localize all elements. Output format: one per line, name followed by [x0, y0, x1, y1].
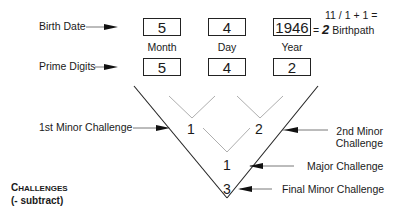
final-minor-value: 3 [223, 181, 231, 197]
day-label: Day [208, 41, 246, 53]
prime-day-box: 4 [208, 58, 246, 76]
prime-digits-arrow [95, 64, 118, 70]
major-v [203, 128, 250, 152]
major-value: 1 [223, 157, 231, 173]
first-minor-v [169, 96, 215, 118]
birthpath-label: Birthpath [332, 24, 374, 36]
major-arrow [249, 163, 294, 169]
second-minor-arrow [282, 127, 328, 133]
birth-date-label: Birth Date [39, 20, 86, 32]
first-minor-label: 1st Minor Challenge [39, 121, 132, 133]
birth-date-arrow [86, 24, 118, 30]
prime-digits-label: Prime Digits [39, 60, 96, 72]
challenges-subtitle: (- subtract) [11, 195, 68, 207]
second-minor-value: 2 [255, 121, 263, 137]
equals-sign: = [313, 24, 319, 36]
prime-year-box: 2 [273, 58, 311, 76]
second-minor-label: 2nd Minor Challenge [333, 125, 383, 149]
year-label: Year [273, 41, 311, 53]
birth-year-box: 1946 [273, 18, 311, 36]
birthpath-result: = 2 Birthpath [313, 22, 374, 37]
second-minor-v [237, 96, 283, 118]
challenges-title: CHALLENGES [11, 182, 68, 195]
first-minor-value: 1 [187, 121, 195, 137]
month-label: Month [143, 41, 181, 53]
major-label: Major Challenge [307, 160, 383, 172]
birthpath-equation: 11 / 1 + 1 = [325, 9, 377, 21]
birth-month-box: 5 [143, 18, 181, 36]
prime-month-box: 5 [143, 58, 181, 76]
challenges-heading: CHALLENGES (- subtract) [11, 182, 68, 207]
first-minor-arrow [133, 125, 170, 131]
final-minor-label: Final Minor Challenge [282, 183, 384, 195]
final-minor-arrow [238, 186, 272, 192]
second-minor-label-line1: 2nd Minor [333, 125, 383, 137]
second-minor-label-line2: Challenge [333, 137, 383, 149]
birth-day-box: 4 [208, 18, 246, 36]
birthpath-value: 2 [322, 22, 329, 37]
